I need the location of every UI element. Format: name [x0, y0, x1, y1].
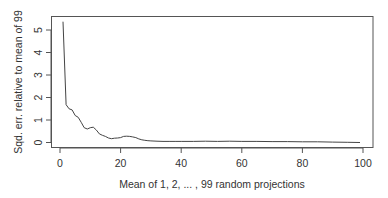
x-tick-label: 100 — [354, 157, 372, 169]
x-axis-label: Mean of 1, 2, ... , 99 random projection… — [119, 178, 305, 190]
y-tick-label: 3 — [32, 72, 44, 78]
y-tick-label: 5 — [32, 27, 44, 33]
y-tick-label: 4 — [32, 49, 44, 55]
x-tick-label: 0 — [57, 157, 63, 169]
data-line — [63, 22, 360, 143]
line-chart: 020406080100 012345 Mean of 1, 2, ... , … — [0, 0, 388, 198]
y-tick-label: 2 — [32, 94, 44, 100]
y-axis-label: Sqd. err. relative to mean of 99 — [12, 10, 24, 154]
x-tick-label: 60 — [236, 157, 248, 169]
y-axis: 012345 — [32, 27, 51, 146]
plot-box — [52, 17, 374, 148]
x-axis: 020406080100 — [57, 148, 372, 169]
y-tick-label: 1 — [32, 117, 44, 123]
x-tick-label: 80 — [297, 157, 309, 169]
x-tick-label: 40 — [175, 157, 187, 169]
x-tick-label: 20 — [115, 157, 127, 169]
y-tick-label: 0 — [32, 139, 44, 145]
